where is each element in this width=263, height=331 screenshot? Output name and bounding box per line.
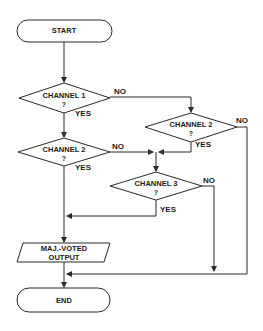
ch3-label: CHANNEL 3 bbox=[135, 180, 178, 188]
output-label-line1: MAJ.-VOTED bbox=[41, 245, 87, 253]
edge-ch3-yes bbox=[67, 200, 156, 216]
end-label: END bbox=[56, 297, 72, 305]
ch2-left-no-label: NO bbox=[112, 143, 124, 151]
edge-ch1-no bbox=[110, 97, 191, 112]
edge-ch3-no bbox=[202, 186, 214, 271]
flowchart-canvas bbox=[0, 0, 263, 331]
output-label-line2: OUTPUT bbox=[49, 254, 80, 262]
ch1-no-label: NO bbox=[114, 88, 126, 96]
start-label: START bbox=[52, 27, 76, 35]
ch2-left-yes-label: YES bbox=[75, 164, 91, 172]
ch1-yes-label: YES bbox=[75, 110, 91, 118]
ch1-question: ? bbox=[62, 101, 66, 108]
ch2-right-yes-label: YES bbox=[195, 141, 211, 149]
ch2-right-label: CHANNEL 2 bbox=[170, 121, 213, 129]
ch3-no-label: NO bbox=[203, 177, 215, 185]
ch3-question: ? bbox=[154, 189, 158, 196]
ch3-yes-label: YES bbox=[160, 206, 176, 214]
ch2-right-question: ? bbox=[189, 130, 193, 137]
ch2-left-question: ? bbox=[62, 155, 66, 162]
ch1-label: CHANNEL 1 bbox=[43, 92, 86, 100]
edge-ch2-right-yes bbox=[159, 142, 191, 152]
ch2-left-label: CHANNEL 2 bbox=[43, 146, 86, 154]
ch2-right-no-label: NO bbox=[236, 117, 248, 125]
